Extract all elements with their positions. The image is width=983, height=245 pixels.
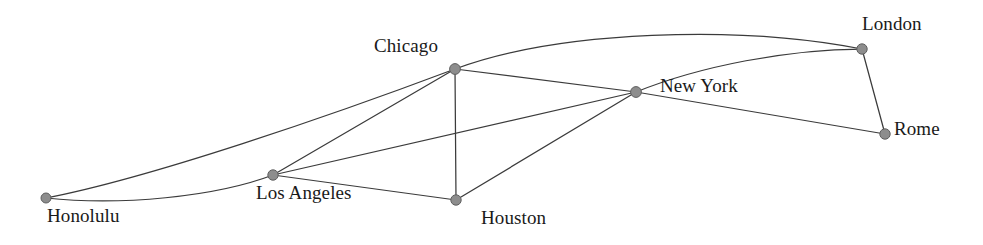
node-rome[interactable] [880, 129, 890, 139]
node-label-chicago: Chicago [374, 36, 438, 55]
node-new_york[interactable] [631, 87, 642, 98]
edge-houston-new_york [456, 92, 636, 200]
node-label-honolulu: Honolulu [47, 206, 120, 225]
node-houston[interactable] [451, 195, 461, 205]
node-label-new_york: New York [660, 76, 738, 95]
edge-new_york-rome [636, 92, 885, 134]
node-label-london: London [862, 14, 922, 33]
node-label-los_angeles: Los Angeles [256, 183, 352, 202]
node-honolulu[interactable] [41, 193, 51, 203]
edge-los_angeles-chicago [273, 69, 455, 175]
network-diagram: HonoluluLos AngelesChicagoHoustonNew Yor… [0, 0, 983, 245]
edge-chicago-houston [455, 69, 456, 200]
edge-chicago-new_york [455, 69, 636, 92]
node-chicago[interactable] [450, 64, 461, 75]
edge-los_angeles-new_york [273, 92, 636, 175]
node-london[interactable] [857, 44, 867, 54]
node-los_angeles[interactable] [268, 170, 278, 180]
edge-chicago-london [455, 34, 862, 69]
node-label-houston: Houston [481, 208, 546, 227]
edge-honolulu-chicago [46, 69, 455, 198]
node-label-rome: Rome [894, 119, 940, 138]
node-layer [41, 44, 890, 205]
edge-london-rome [862, 49, 885, 134]
edge-honolulu-los_angeles [46, 175, 273, 201]
edge-layer [46, 34, 885, 200]
